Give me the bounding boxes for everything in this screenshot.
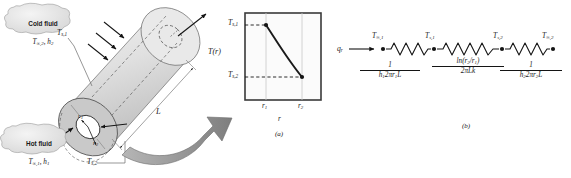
label-heat-rate: qr: [337, 45, 343, 53]
resistance-outer-convection-formula: 1 h22πr2L: [500, 62, 562, 80]
hot-fluid-title: Hot fluid: [26, 140, 52, 147]
resistor-inner-convection: [386, 43, 431, 55]
resistor-conduction: [437, 43, 499, 55]
hot-fluid-callout-text: Hot fluid T∞,1, h1: [8, 132, 70, 169]
cold-fluid-title: Cold fluid: [28, 20, 57, 27]
curve-point-ts1: [264, 23, 268, 27]
res1-denominator: h12πr1L: [360, 72, 420, 80]
resistor-outer-convection: [505, 43, 550, 55]
caption-b: (b): [462, 122, 470, 130]
hot-fluid-conditions: T∞,1, h1: [29, 158, 50, 166]
thermal-resistance-network: [349, 43, 555, 55]
plot-ylabel: T(r): [208, 48, 221, 56]
cold-arrow-2: [96, 33, 116, 49]
node-label-ts1: Ts,1: [425, 31, 435, 40]
node-label-tinf2: T∞,2: [542, 31, 553, 40]
node-dot-ts2: [500, 47, 504, 51]
label-r1-cylinder: r1: [78, 113, 83, 121]
cold-arrow-3: [88, 44, 108, 60]
temperature-profile-plot: [245, 13, 321, 100]
node-label-ts2: Ts,2: [493, 31, 503, 40]
label-r2-cylinder: r2: [93, 140, 98, 148]
res1-numerator: 1: [360, 62, 420, 70]
curve-point-ts2: [300, 75, 304, 79]
plot-ytick-ts1: Ts,1: [228, 19, 238, 27]
label-ts1-cylinder: Ts,1: [57, 29, 67, 37]
res3-numerator: 1: [500, 62, 562, 70]
plot-xlabel: r: [278, 116, 281, 123]
plot-xtick-r2: r2: [298, 103, 303, 111]
res2-numerator: ln(r2/r1): [432, 58, 504, 66]
callout-curved-arrow: [122, 117, 232, 165]
resistance-inner-convection-formula: 1 h12πr1L: [360, 62, 420, 80]
plot-xtick-r1: r1: [262, 103, 267, 111]
heat-transfer-figure: [0, 0, 571, 178]
node-dot-tinf1: [381, 47, 385, 51]
resistance-conduction-formula: ln(r2/r1) 2πLk: [432, 58, 504, 76]
node-dot-tinf2: [551, 47, 555, 51]
cold-fluid-conditions: T∞,2, h2: [33, 38, 54, 46]
node-dot-ts1: [432, 47, 436, 51]
cold-arrow-1: [104, 22, 124, 38]
plot-frame: [245, 13, 321, 100]
plot-ytick-ts2: Ts,2: [228, 71, 238, 79]
caption-a: (a): [275, 130, 283, 138]
res3-denominator: h22πr2L: [500, 72, 562, 80]
label-ts2-cylinder: Ts,2: [87, 158, 97, 166]
label-length: L: [156, 108, 161, 116]
node-label-tinf1: T∞,1: [372, 31, 383, 40]
res2-denominator: 2πLk: [432, 68, 504, 76]
